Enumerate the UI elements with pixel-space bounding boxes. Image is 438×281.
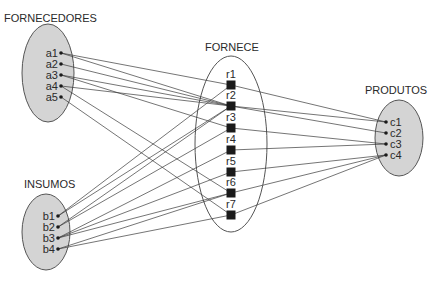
element-dot-a2 bbox=[59, 62, 63, 66]
relationship-node-r2 bbox=[227, 102, 236, 111]
element-dot-b3 bbox=[56, 236, 60, 240]
set-title-produtos: PRODUTOS bbox=[365, 84, 427, 96]
relationship-node-r4 bbox=[227, 146, 236, 155]
element-label-c4: c4 bbox=[390, 149, 402, 161]
edge-a1-r1 bbox=[61, 53, 231, 85]
set-ellipses bbox=[22, 24, 423, 270]
edge-b4-r6 bbox=[58, 193, 231, 249]
element-label-b4: b4 bbox=[43, 243, 55, 255]
element-dot-c3 bbox=[384, 142, 388, 146]
relationship-label-r4: r4 bbox=[226, 133, 236, 145]
er-diagram: FORNECEDORESa1a2a3a4a5INSUMOSb1b2b3b4PRO… bbox=[0, 0, 438, 281]
element-dot-b4 bbox=[56, 247, 60, 251]
relationship-label-r1: r1 bbox=[226, 68, 236, 80]
relation-title: FORNECE bbox=[205, 41, 259, 53]
element-dot-c4 bbox=[384, 153, 388, 157]
relationship-label-r2: r2 bbox=[226, 89, 236, 101]
element-dot-b2 bbox=[56, 225, 60, 229]
relationship-node-r3 bbox=[227, 124, 236, 133]
relationship-label-r7: r7 bbox=[226, 198, 236, 210]
edge-b4-r7 bbox=[58, 215, 231, 249]
element-dot-a5 bbox=[59, 95, 63, 99]
element-dot-a1 bbox=[59, 51, 63, 55]
element-dot-c2 bbox=[384, 131, 388, 135]
element-dot-a4 bbox=[59, 84, 63, 88]
relationship-node-r6 bbox=[227, 189, 236, 198]
element-dot-a3 bbox=[59, 73, 63, 77]
relationship-label-r6: r6 bbox=[226, 176, 236, 188]
relationship-label-r3: r3 bbox=[226, 111, 236, 123]
relationship-label-r5: r5 bbox=[226, 155, 236, 167]
element-label-a5: a5 bbox=[46, 91, 58, 103]
set-title-insumos: INSUMOS bbox=[24, 178, 75, 190]
relationship-node-r7 bbox=[227, 211, 236, 220]
set-title-fornecedores: FORNECEDORES bbox=[4, 12, 97, 24]
element-dot-c1 bbox=[384, 120, 388, 124]
element-dot-b1 bbox=[56, 214, 60, 218]
